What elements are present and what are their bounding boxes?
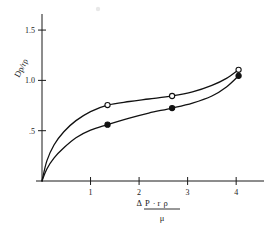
x-tick-label: 1	[89, 188, 93, 197]
y-axis-ticks: .51.01.5	[25, 26, 46, 136]
x-axis-ticks: 1234	[89, 177, 239, 197]
data-point-open-circle	[105, 102, 110, 107]
x-axis-title: Δ P·rρ μ	[137, 198, 180, 223]
x-tick-label: 2	[137, 188, 141, 197]
data-point-filled-circle	[169, 105, 174, 110]
data-point-open-circle	[236, 67, 241, 72]
xlabel-numerator: P·rρ	[145, 198, 168, 208]
xlabel-delta: Δ	[137, 198, 143, 208]
x-tick-label: 3	[186, 188, 190, 197]
paper-speck	[96, 7, 100, 11]
chart-figure: .51.01.5 1234 Dp/rρ Δ P·rρ μ	[0, 0, 270, 229]
xlabel-denominator: μ	[160, 213, 165, 223]
x-tick-label: 4	[234, 188, 238, 197]
data-curves	[42, 70, 239, 181]
xlabel-num-dot: ·	[153, 198, 156, 208]
data-point-filled-circle	[236, 73, 241, 78]
xlabel-num-rho: ρ	[163, 198, 167, 208]
y-tick-label: 1.5	[25, 26, 35, 35]
curve-open-circle-series	[42, 70, 239, 181]
y-tick-label: 1.0	[25, 76, 35, 85]
data-point-open-circle	[169, 93, 174, 98]
chart-svg: .51.01.5 1234 Dp/rρ Δ P·rρ μ	[0, 0, 270, 229]
y-tick-label: .5	[29, 127, 35, 136]
plot-axes	[36, 14, 264, 181]
data-markers	[105, 67, 241, 127]
xlabel-num-r: r	[158, 198, 161, 208]
xlabel-num-P: P	[145, 198, 150, 208]
curve-filled-circle-series	[42, 76, 239, 181]
data-point-filled-circle	[105, 122, 110, 127]
